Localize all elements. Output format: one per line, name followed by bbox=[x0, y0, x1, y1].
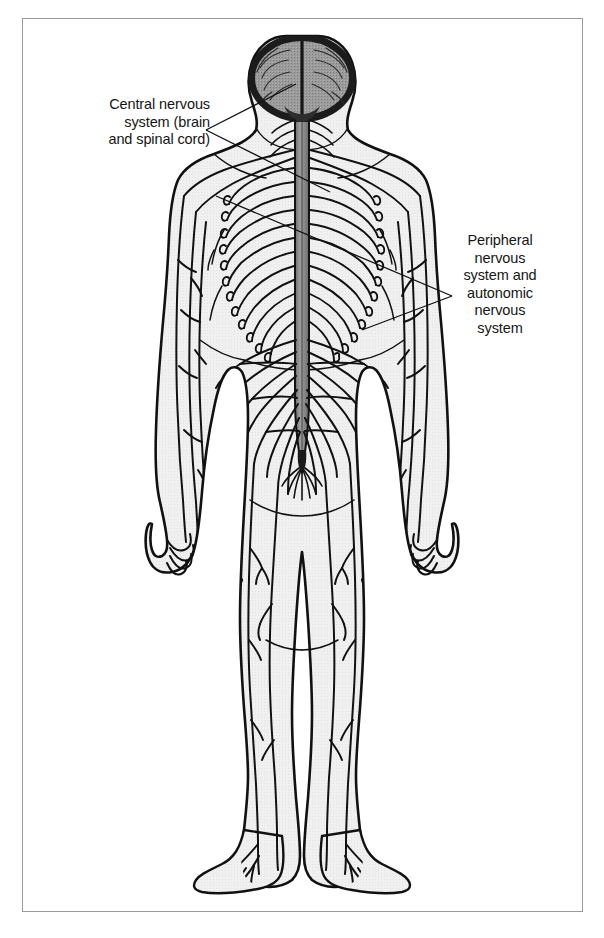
brain bbox=[248, 34, 356, 122]
feet bbox=[194, 830, 410, 893]
peripheral-nervous-system-label: Peripheral nervous system and autonomic … bbox=[452, 232, 548, 337]
figure-page: Central nervous system (brain and spinal… bbox=[0, 0, 604, 938]
spinal-cord bbox=[295, 92, 309, 474]
central-nervous-system-label: Central nervous system (brain and spinal… bbox=[66, 96, 210, 149]
